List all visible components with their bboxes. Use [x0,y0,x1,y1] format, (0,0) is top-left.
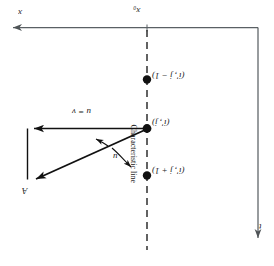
vertex-label-A: A [22,186,28,196]
x-origin-label: x₀ [133,6,140,16]
point-label-lower: (i', j + 1) [152,166,185,176]
characteristic-line-figure: x x₀ t (i', j − 1) (i', j) (i', j + 1) u… [0,0,274,266]
x-axis [13,25,258,32]
x-axis-label: x [18,8,22,18]
t-axis-label: t [259,222,262,232]
velocity-vector-label: u = v [72,107,91,117]
angle-vector-label: u [113,152,118,162]
point-middle [143,124,152,133]
point-label-middle: (i', j) [152,118,169,128]
point-label-upper: (i', j − 1) [152,71,185,81]
point-upper [143,75,151,83]
point-lower [143,171,151,179]
characteristic-line-label: Characteristic line [129,117,138,183]
